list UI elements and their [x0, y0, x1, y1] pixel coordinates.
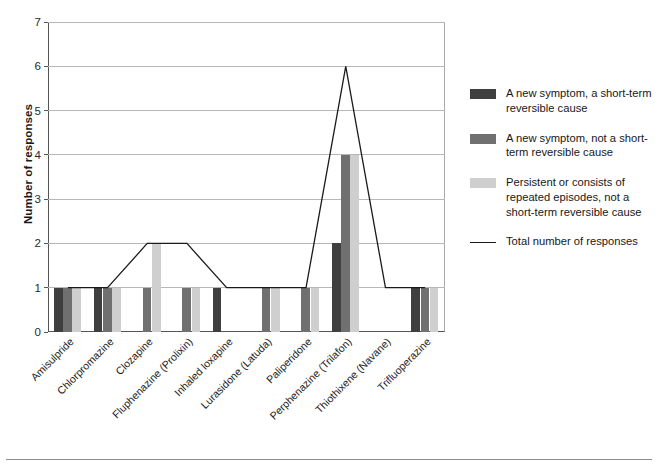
y-tick-label: 2 [35, 237, 41, 249]
legend-label: A new symptom, a short-term reversible c… [506, 86, 656, 116]
bar [311, 288, 320, 332]
legend-item: Persistent or consists of repeated episo… [470, 175, 656, 219]
y-tick-label: 5 [35, 105, 41, 117]
bar [262, 288, 271, 332]
bars-layer [48, 22, 445, 332]
bar [72, 288, 81, 332]
bar [94, 288, 103, 332]
bar [182, 288, 191, 332]
y-tick-label: 4 [35, 149, 41, 161]
footer-divider [6, 459, 652, 460]
legend-item: A new symptom, not a short-term reversib… [470, 131, 656, 161]
line-swatch [470, 242, 496, 243]
bar [112, 288, 121, 332]
y-tick-label: 7 [35, 16, 41, 28]
bar [54, 288, 63, 332]
y-axis-title: Number of responses [22, 74, 34, 254]
bar [341, 155, 350, 332]
dark-gray-swatch [470, 89, 496, 99]
bar [411, 288, 420, 332]
y-tick-label: 1 [35, 282, 41, 294]
light-gray-swatch [470, 178, 496, 188]
y-tick-label: 6 [35, 60, 41, 72]
y-tick-label: 0 [35, 326, 41, 338]
bar [152, 243, 161, 332]
legend-label: A new symptom, not a short-term reversib… [506, 131, 656, 161]
bar [103, 288, 112, 332]
legend-label: Total number of responses [506, 234, 638, 249]
chart-legend: A new symptom, a short-term reversible c… [470, 86, 656, 264]
plot-area: 01234567 AmisulprideChlorpromazineClozap… [48, 22, 445, 332]
bar [301, 288, 310, 332]
bar [63, 288, 72, 332]
y-tick-label: 3 [35, 193, 41, 205]
bar [430, 288, 439, 332]
bar [143, 288, 152, 332]
bar [192, 288, 201, 332]
chart-figure: Number of responses 01234567 Amisulpride… [0, 0, 658, 471]
bar [271, 288, 280, 332]
legend-label: Persistent or consists of repeated episo… [506, 175, 656, 219]
legend-item: A new symptom, a short-term reversible c… [470, 86, 656, 116]
bar [350, 155, 359, 332]
medium-gray-swatch [470, 134, 496, 144]
bar [213, 288, 222, 332]
bar [421, 288, 430, 332]
legend-item: Total number of responses [470, 234, 656, 249]
bar [332, 243, 341, 332]
